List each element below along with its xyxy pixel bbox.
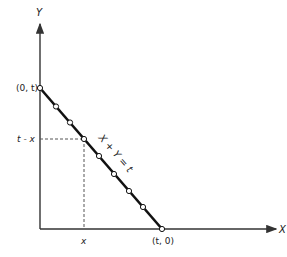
marker <box>111 171 116 176</box>
y-intercept-label: (0, t) <box>16 83 38 93</box>
marker <box>67 120 72 125</box>
marker-x-intercept <box>159 226 164 231</box>
diagram-canvas: Y X (0, t) (t, 0) t - x x X + Y = t <box>0 0 287 257</box>
x-tick-label: x <box>80 236 87 246</box>
marker <box>53 104 58 109</box>
y-axis-label: Y <box>36 7 43 18</box>
y-tick-label: t - x <box>17 134 35 144</box>
marker-guide-point <box>81 136 86 141</box>
marker-y-intercept <box>37 85 42 90</box>
marker <box>96 153 101 158</box>
marker <box>126 188 131 193</box>
line-equation-label: X + Y = t <box>96 131 136 175</box>
x-intercept-label: (t, 0) <box>152 236 174 246</box>
marker <box>140 204 145 209</box>
x-axis-label: X <box>278 224 287 235</box>
